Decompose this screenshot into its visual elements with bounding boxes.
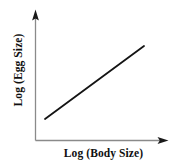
figure-container: Log (Body Size) Log (Egg Size) (0, 0, 174, 168)
trend-line (45, 46, 144, 119)
x-axis-label: Log (Body Size) (0, 148, 174, 160)
y-axis-label: Log (Egg Size) (13, 0, 27, 140)
